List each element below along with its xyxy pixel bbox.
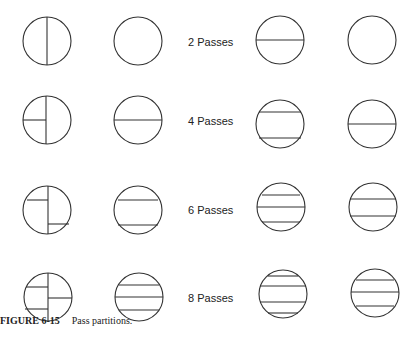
row-label: 6 Passes [188,204,234,216]
row-label: 4 Passes [188,115,234,127]
circle-half [348,100,396,148]
circle-three-bands [349,183,397,231]
row-label: 2 Passes [188,36,234,48]
circle-six-partition [23,186,71,234]
circle-whole [114,17,162,65]
circle-four-bands [351,269,399,317]
circle-eight-partition [24,273,72,321]
row-4-passes: 4 Passes [23,96,396,148]
caption-number: FIGURE 6-15 [0,315,60,326]
row-label: 8 Passes [188,292,234,304]
row-2-passes: 2 Passes [23,16,396,65]
circle-quartered [23,96,71,144]
row-8-passes: 8 Passes [24,269,399,321]
pass-partitions-diagram: 2 Passes 4 Passes [0,0,417,344]
circle-half [114,96,162,144]
circle-bands [114,186,162,234]
circle-split-horizontal [256,16,304,64]
row-6-passes: 6 Passes [23,183,397,234]
circle-split-vertical [23,17,71,65]
circle-four-bands [257,183,305,231]
circle-whole [348,16,396,64]
caption-text: Pass partitions. [72,315,133,326]
circle-three-bands [256,100,304,148]
circle-four-bands [115,273,163,321]
circle-five-bands [259,270,307,318]
